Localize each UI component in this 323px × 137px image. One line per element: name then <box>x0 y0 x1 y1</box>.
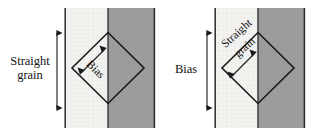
right-dark-fabric-panel <box>258 8 305 128</box>
left-straight-grain-label-line2: grain <box>17 68 43 82</box>
right-bias-label: Bias <box>175 62 197 76</box>
left-dark-fabric-panel <box>108 8 155 128</box>
fabric-grain-figure: Straight grain Bias Bias Straigh <box>0 0 323 137</box>
figure-canvas: Straight grain Bias Bias Straigh <box>0 0 323 137</box>
left-straight-grain-label-line1: Straight <box>10 54 50 68</box>
